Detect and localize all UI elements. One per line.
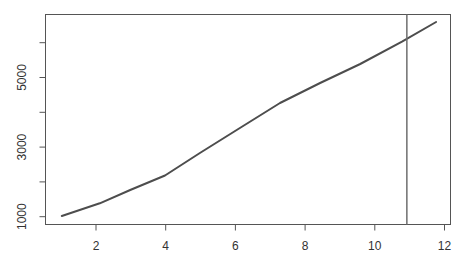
line-chart: 24681012 100030005000 (0, 0, 468, 263)
x-axis: 24681012 (93, 225, 452, 253)
x-tick-label: 10 (368, 239, 382, 253)
y-axis: 100030005000 (15, 43, 46, 230)
plot-box (46, 15, 451, 225)
x-tick-label: 2 (93, 239, 100, 253)
y-tick-label: 5000 (15, 64, 29, 91)
series-line (62, 22, 436, 216)
x-tick-label: 12 (438, 239, 452, 253)
data-series (62, 22, 436, 216)
y-tick-label: 1000 (15, 203, 29, 230)
plot-area (46, 15, 451, 225)
y-tick-label: 3000 (15, 133, 29, 160)
x-tick-label: 4 (162, 239, 169, 253)
x-tick-label: 6 (232, 239, 239, 253)
x-tick-label: 8 (302, 239, 309, 253)
